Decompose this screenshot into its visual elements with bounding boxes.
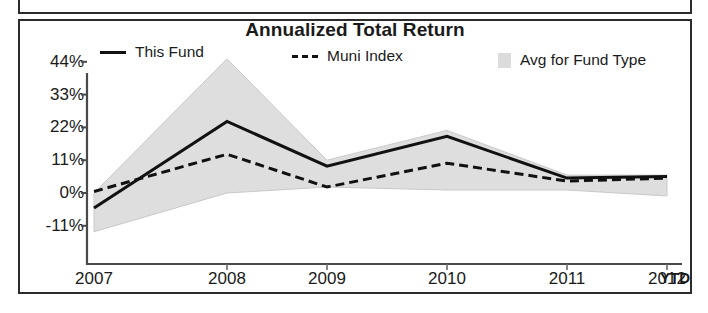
avg-for-fund-type-band <box>94 59 667 232</box>
x-axis-ytd-label: YTD <box>660 269 690 286</box>
annualized-total-return-chart-panel: Annualized Total Return This Fund Muni I… <box>18 19 692 294</box>
chart-canvas <box>20 21 694 292</box>
x-tick-label: 2011 <box>549 269 586 289</box>
x-tick-label: 2009 <box>308 269 346 289</box>
x-tick-label: 2010 <box>428 269 466 289</box>
x-tick-label: 2008 <box>208 269 246 289</box>
plot-area: -11%0%11%22%33%44% 200720082009201020112… <box>20 21 694 292</box>
x-tick-label: 2007 <box>75 269 113 289</box>
clipped-panel-above <box>18 0 692 14</box>
